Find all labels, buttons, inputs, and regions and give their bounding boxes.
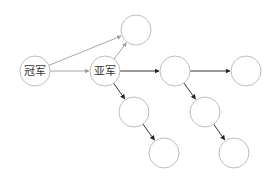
node-runner-up: 亚军 <box>90 56 120 86</box>
node-top <box>121 15 151 45</box>
node-label: 冠军 <box>24 65 46 78</box>
node-circle <box>219 138 249 168</box>
node-label: 亚军 <box>94 65 116 78</box>
node-circle <box>121 15 151 45</box>
node-row-1 <box>160 56 190 86</box>
tournament-graph: 冠军亚军 <box>0 0 276 182</box>
nodes-layer: 冠军亚军 <box>20 15 261 168</box>
node-circle <box>190 97 220 127</box>
node-circle <box>119 97 149 127</box>
edge-arrow-runner_up-to-top <box>114 43 126 59</box>
node-row-2 <box>231 56 261 86</box>
node-champion: 冠军 <box>20 56 50 86</box>
node-ru-down-2 <box>149 138 179 168</box>
edge-arrow-row_1-to-r1_down_1 <box>184 83 196 99</box>
edge-arrow-ru_down_1-to-ru_down_2 <box>143 124 155 140</box>
node-circle <box>231 56 261 86</box>
node-ru-down-1 <box>119 97 149 127</box>
edge-arrow-runner_up-to-ru_down_1 <box>114 83 125 99</box>
node-r1-down-2 <box>219 138 249 168</box>
node-r1-down-1 <box>190 97 220 127</box>
edge-arrow-r1_down_1-to-r1_down_2 <box>214 124 225 140</box>
node-circle <box>160 56 190 86</box>
node-circle <box>149 138 179 168</box>
